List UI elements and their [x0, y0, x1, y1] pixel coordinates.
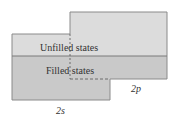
- unfilled-states-label: Unfilled states: [40, 42, 98, 53]
- filled-states-label: Filled states: [46, 65, 94, 76]
- s-band-filled: [12, 56, 110, 100]
- band-diagram: Unfilled states Filled states 2p 2s: [0, 0, 178, 122]
- p-band-label: 2p: [131, 83, 141, 94]
- s-band-label: 2s: [56, 105, 65, 116]
